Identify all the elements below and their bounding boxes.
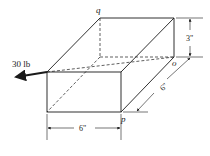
box-hidden-edges [47, 18, 174, 112]
point-o-label: o [172, 58, 177, 68]
force-arrow [16, 72, 47, 77]
point-q-label: q [96, 5, 101, 15]
box-solid-edges [47, 18, 174, 112]
force-label: 30 lb [12, 59, 31, 69]
depth-dimension-label: 6" [158, 81, 170, 93]
height-dimension-label: 3" [186, 34, 193, 43]
box-diagram: 30 lb q o p 3" 6" 6" [0, 0, 210, 156]
width-dimension-label: 6" [79, 124, 86, 133]
depth-dimension [123, 58, 190, 112]
